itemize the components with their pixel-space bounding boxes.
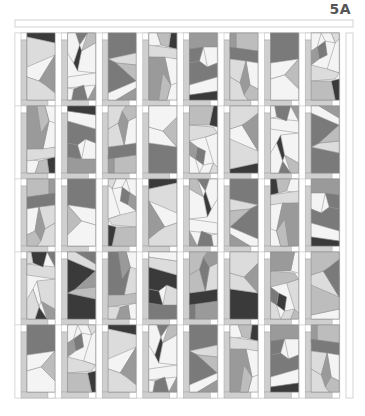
- corner-square: [224, 252, 230, 259]
- corner-square: [21, 252, 27, 259]
- patch-piece: [230, 289, 258, 319]
- sashing-strip-vertical: [143, 332, 149, 392]
- corner-square: [21, 325, 27, 332]
- corner-square: [170, 319, 177, 325]
- patch-piece: [68, 179, 96, 209]
- patch-piece: [189, 106, 213, 125]
- corner-square: [305, 325, 311, 332]
- sashing-strip-horizontal: [62, 319, 89, 325]
- corner-square: [129, 173, 136, 179]
- corner-square: [183, 106, 189, 113]
- corner-square: [170, 173, 177, 179]
- corner-square: [292, 392, 299, 398]
- sashing-strip-horizontal: [265, 392, 292, 398]
- sashing-strip-horizontal: [305, 100, 332, 106]
- sashing-strip-horizontal: [21, 392, 48, 398]
- sashing-strip-horizontal: [62, 100, 89, 106]
- corner-square: [292, 100, 299, 106]
- corner-square: [251, 319, 258, 325]
- sashing-strip-vertical: [224, 186, 230, 246]
- corner-square: [102, 179, 108, 186]
- corner-square: [332, 319, 339, 325]
- sashing-strip-horizontal: [143, 100, 170, 106]
- patch-piece: [311, 179, 339, 195]
- corner-square: [48, 173, 55, 179]
- sashing-strip-horizontal: [62, 392, 89, 398]
- sashing-strip-vertical: [21, 186, 27, 246]
- corner-square: [62, 33, 68, 40]
- block-patch: [149, 106, 177, 173]
- corner-square: [210, 392, 217, 398]
- corner-square: [62, 179, 68, 186]
- sashing-strip-horizontal: [183, 246, 210, 252]
- corner-square: [224, 106, 230, 113]
- corner-square: [48, 246, 55, 252]
- corner-square: [305, 106, 311, 113]
- sashing-strip-horizontal: [265, 319, 292, 325]
- corner-square: [332, 100, 339, 106]
- corner-square: [143, 179, 149, 186]
- corner-square: [89, 100, 96, 106]
- sashing-strip-vertical: [21, 113, 27, 173]
- block-patch: [149, 252, 177, 319]
- corner-square: [102, 33, 108, 40]
- corner-square: [265, 33, 271, 40]
- corner-square: [143, 33, 149, 40]
- sashing-strip-vertical: [305, 40, 311, 100]
- corner-square: [292, 173, 299, 179]
- patch-piece: [311, 81, 335, 100]
- block-patch: [230, 33, 258, 100]
- corner-square: [210, 100, 217, 106]
- block-patch: [311, 252, 339, 319]
- patch-piece: [189, 33, 217, 49]
- corner-square: [21, 106, 27, 113]
- sashing-strip-horizontal: [305, 246, 332, 252]
- block-patch: [149, 179, 177, 246]
- sashing-strip-vertical: [62, 332, 68, 392]
- corner-square: [292, 319, 299, 325]
- corner-square: [62, 325, 68, 332]
- block-patch: [68, 179, 96, 246]
- block-patch: [271, 33, 299, 100]
- sashing-strip-horizontal: [183, 173, 210, 179]
- sashing-strip-horizontal: [265, 173, 292, 179]
- corner-square: [224, 179, 230, 186]
- block-patch: [311, 106, 339, 173]
- corner-square: [183, 179, 189, 186]
- patch-piece: [149, 303, 177, 319]
- patch-piece: [68, 373, 92, 392]
- sashing-strip-horizontal: [102, 100, 129, 106]
- sashing-strip-vertical: [102, 332, 108, 392]
- sashing-strip-vertical: [143, 113, 149, 173]
- sashing-strip-horizontal: [265, 246, 292, 252]
- corner-square: [89, 392, 96, 398]
- sashing-strip-vertical: [183, 332, 189, 392]
- corner-square: [265, 325, 271, 332]
- patch-piece: [271, 252, 295, 271]
- block-patch: [311, 325, 339, 392]
- corner-square: [129, 319, 136, 325]
- patch-piece: [27, 325, 55, 355]
- sashing-strip-horizontal: [21, 246, 48, 252]
- corner-square: [183, 325, 189, 332]
- corner-square: [210, 246, 217, 252]
- right-border-strip: [346, 33, 353, 398]
- patch-piece: [149, 143, 177, 173]
- sashing-strip-horizontal: [224, 100, 251, 106]
- sashing-strip-horizontal: [62, 173, 89, 179]
- corner-square: [305, 33, 311, 40]
- sashing-strip-horizontal: [143, 173, 170, 179]
- sashing-strip-horizontal: [102, 173, 129, 179]
- corner-square: [251, 246, 258, 252]
- corner-square: [170, 392, 177, 398]
- sashing-strip-vertical: [305, 113, 311, 173]
- corner-square: [251, 100, 258, 106]
- sashing-strip-horizontal: [224, 392, 251, 398]
- patch-piece: [271, 33, 299, 63]
- sashing-strip-vertical: [224, 113, 230, 173]
- corner-square: [251, 173, 258, 179]
- sashing-strip-vertical: [102, 186, 108, 246]
- patch-piece: [112, 227, 136, 246]
- sashing-strip-vertical: [102, 40, 108, 100]
- sashing-strip-horizontal: [224, 173, 251, 179]
